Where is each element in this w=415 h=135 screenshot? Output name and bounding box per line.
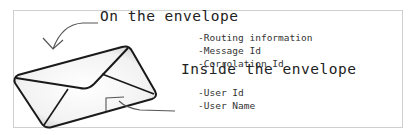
inside-heading: Inside the envelope xyxy=(181,61,356,77)
outside-item: -Message Id xyxy=(198,45,261,56)
inside-item: -User Id xyxy=(198,87,244,98)
outside-item: -Routing information xyxy=(198,32,312,43)
outer-arrow-icon xyxy=(43,23,98,49)
envelope-icon xyxy=(14,47,156,128)
outside-heading: On the envelope xyxy=(100,8,238,24)
inside-item: -User Name xyxy=(198,100,255,111)
